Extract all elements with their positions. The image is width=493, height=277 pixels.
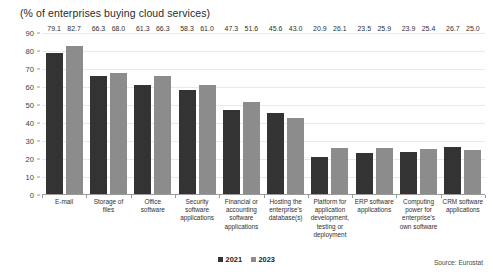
bar-column: 51.6 <box>243 33 260 195</box>
bar-value-label: 25.0 <box>466 25 480 32</box>
x-axis-label: Financial or accounting software applica… <box>219 198 263 231</box>
bar-column: 82.7 <box>66 33 83 195</box>
bar-value-label: 47.3 <box>225 25 239 32</box>
bar-2023: 61.0 <box>199 85 216 195</box>
bar-value-label: 66.3 <box>92 25 106 32</box>
bar-group: 61.366.3 <box>131 33 175 195</box>
y-axis-tick-mark <box>37 33 40 34</box>
y-axis-tick-label: 60 <box>26 83 34 92</box>
bar-2021: 45.6 <box>267 113 284 195</box>
x-axis-label: Computing power for enterprise's own sof… <box>396 198 440 231</box>
bar-value-label: 43.0 <box>289 25 303 32</box>
bar-value-label: 26.1 <box>333 25 347 32</box>
legend-swatch-icon <box>251 257 256 262</box>
bar-2023: 68.0 <box>110 73 127 195</box>
bar-2021: 26.7 <box>444 147 461 195</box>
bar-column: 23.5 <box>356 33 373 195</box>
y-axis-tick-mark <box>37 177 40 178</box>
bar-column: 61.3 <box>134 33 151 195</box>
chart-legend: 20212023 <box>0 255 493 264</box>
bar-group: 45.643.0 <box>263 33 307 195</box>
bar-value-label: 23.5 <box>357 25 371 32</box>
legend-swatch-icon <box>218 257 223 262</box>
bar-value-label: 51.6 <box>245 25 259 32</box>
bar-column: 26.1 <box>331 33 348 195</box>
bar-2023: 43.0 <box>287 118 304 195</box>
y-axis-tick-mark <box>37 51 40 52</box>
y-axis-tick-mark <box>37 69 40 70</box>
y-axis-tick-label: 10 <box>26 173 34 182</box>
bar-column: 25.4 <box>420 33 437 195</box>
bar-value-label: 25.9 <box>377 25 391 32</box>
bar-group: 58.361.0 <box>175 33 219 195</box>
x-axis-label: Storage of files <box>86 198 130 214</box>
bar-column: 25.9 <box>376 33 393 195</box>
x-axis-tick <box>485 195 486 198</box>
y-axis-tick-label: 40 <box>26 119 34 128</box>
bar-2023: 25.4 <box>420 149 437 195</box>
x-axis-label: CRM software applications <box>441 198 485 214</box>
bar-2021: 23.5 <box>356 153 373 195</box>
y-axis: 0102030405060708090 <box>0 33 40 195</box>
y-axis-tick-label: 30 <box>26 137 34 146</box>
y-axis-tick-label: 90 <box>26 29 34 38</box>
bar-column: 79.1 <box>46 33 63 195</box>
bar-group: 23.525.9 <box>352 33 396 195</box>
bar-column: 68.0 <box>110 33 127 195</box>
y-axis-tick-mark <box>37 87 40 88</box>
bar-value-label: 25.4 <box>422 25 436 32</box>
bar-2023: 51.6 <box>243 102 260 195</box>
plot-area: 79.182.766.368.061.366.358.361.047.351.6… <box>42 33 485 195</box>
bar-column: 58.3 <box>179 33 196 195</box>
legend-item-2023[interactable]: 2023 <box>251 255 275 264</box>
x-axis-label: Office software <box>131 198 175 214</box>
bar-value-label: 26.7 <box>446 25 460 32</box>
bar-2023: 25.9 <box>376 148 393 195</box>
bar-2021: 66.3 <box>90 76 107 195</box>
bar-column: 25.0 <box>464 33 481 195</box>
bar-value-label: 23.9 <box>402 25 416 32</box>
bar-group: 26.725.0 <box>441 33 485 195</box>
y-axis-tick-label: 70 <box>26 65 34 74</box>
bar-2021: 20.9 <box>311 157 328 195</box>
bar-group: 79.182.7 <box>42 33 86 195</box>
bar-column: 23.9 <box>400 33 417 195</box>
y-axis-tick-label: 50 <box>26 101 34 110</box>
cloud-services-bar-chart: (% of enterprises buying cloud services)… <box>0 0 493 277</box>
bar-column: 45.6 <box>267 33 284 195</box>
bar-column: 26.7 <box>444 33 461 195</box>
bar-column: 20.9 <box>311 33 328 195</box>
legend-label: 2023 <box>259 255 275 264</box>
bar-group: 47.351.6 <box>219 33 263 195</box>
source-note: Source: Eurostat <box>434 259 483 266</box>
bar-2021: 23.9 <box>400 152 417 195</box>
x-axis-label: Platform for application development, te… <box>308 198 352 239</box>
x-axis-label: Hosting the enterprise's database(s) <box>263 198 307 223</box>
bar-column: 47.3 <box>223 33 240 195</box>
bar-2023: 26.1 <box>331 148 348 195</box>
x-axis-label: E-mail <box>42 198 86 206</box>
bar-2021: 58.3 <box>179 90 196 195</box>
bar-value-label: 61.0 <box>200 25 214 32</box>
bar-column: 66.3 <box>90 33 107 195</box>
bar-value-label: 82.7 <box>67 25 81 32</box>
chart-title: (% of enterprises buying cloud services) <box>20 7 210 19</box>
bar-column: 61.0 <box>199 33 216 195</box>
bar-value-label: 68.0 <box>112 25 126 32</box>
bar-value-label: 58.3 <box>180 25 194 32</box>
bar-group: 20.926.1 <box>308 33 352 195</box>
bar-value-label: 79.1 <box>47 25 61 32</box>
bar-group: 66.368.0 <box>86 33 130 195</box>
bar-2023: 66.3 <box>154 76 171 195</box>
bar-2021: 47.3 <box>223 110 240 195</box>
y-axis-tick-mark <box>37 141 40 142</box>
legend-label: 2021 <box>226 255 242 264</box>
bar-value-label: 61.3 <box>136 25 150 32</box>
bar-2023: 25.0 <box>464 150 481 195</box>
bar-2021: 79.1 <box>46 53 63 195</box>
bar-value-label: 66.3 <box>156 25 170 32</box>
x-axis-label: Security software applications <box>175 198 219 223</box>
bar-value-label: 45.6 <box>269 25 283 32</box>
bar-groups: 79.182.766.368.061.366.358.361.047.351.6… <box>42 33 485 195</box>
legend-item-2021[interactable]: 2021 <box>218 255 242 264</box>
